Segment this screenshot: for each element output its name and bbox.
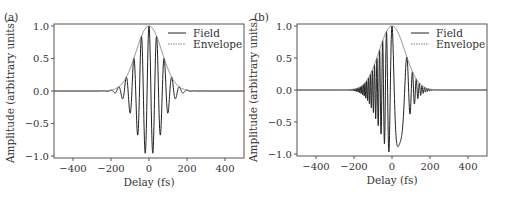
- y-tick-label: 0.0: [276, 85, 292, 96]
- x-tick-label: 400: [458, 161, 477, 172]
- chart-panel-b: −400−2000200400−1.0−0.50.00.51.0Delay (f…: [247, 11, 487, 186]
- legend-envelope-label: Envelope: [436, 38, 485, 50]
- x-tick-label: 0: [389, 161, 395, 172]
- figure: −400−2000200400−1.0−0.50.00.51.0Delay (f…: [0, 0, 508, 202]
- x-tick-label: −400: [59, 163, 86, 174]
- y-tick-label: 0.5: [33, 53, 49, 64]
- x-tick-label: 0: [146, 163, 152, 174]
- y-tick-label: 0.0: [33, 86, 49, 97]
- x-tick-label: −200: [97, 163, 124, 174]
- legend: FieldEnvelope: [411, 27, 485, 50]
- x-tick-label: −200: [340, 161, 367, 172]
- y-tick-label: 1.0: [33, 21, 49, 32]
- x-axis-label: Delay (fs): [367, 174, 418, 186]
- y-axis-label: Amplitude (arbitrary units): [247, 18, 259, 163]
- panel-label: (b): [254, 11, 269, 23]
- y-tick-label: −0.5: [268, 117, 292, 128]
- y-axis-label: Amplitude (arbitrary units): [4, 19, 16, 164]
- x-tick-label: 400: [215, 163, 234, 174]
- x-tick-label: 200: [177, 163, 196, 174]
- y-tick-label: 1.0: [276, 21, 292, 32]
- x-tick-label: −400: [302, 161, 329, 172]
- x-axis-label: Delay (fs): [124, 176, 175, 188]
- legend-envelope-label: Envelope: [193, 38, 242, 50]
- y-tick-label: −1.0: [268, 149, 292, 160]
- x-tick-label: 200: [420, 161, 439, 172]
- chart-panel-a: −400−2000200400−1.0−0.50.00.51.0Delay (f…: [4, 11, 244, 188]
- y-tick-label: 0.5: [276, 53, 292, 64]
- panel-label: (a): [4, 11, 18, 23]
- y-tick-label: −1.0: [25, 151, 49, 162]
- y-tick-label: −0.5: [25, 118, 49, 129]
- legend: FieldEnvelope: [168, 27, 242, 50]
